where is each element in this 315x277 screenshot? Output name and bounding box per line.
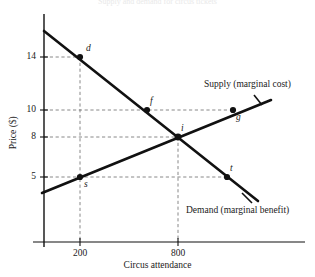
demand-curve-label: Demand (marginal benefit) — [186, 206, 289, 216]
y-axis-title: Price ($) — [9, 103, 19, 163]
y-tick-label-8: 8 — [18, 132, 36, 142]
x-tick-label-200: 200 — [60, 249, 100, 259]
point-i — [175, 134, 182, 141]
x-axis-title: Circus attendance — [0, 261, 315, 271]
point-label-t: t — [230, 164, 233, 174]
point-s — [77, 174, 83, 180]
point-t — [224, 174, 230, 180]
supply-demand-figure: Supply and demand for circus tickets — [0, 0, 315, 277]
y-tick-label-5: 5 — [18, 172, 36, 182]
point-d — [77, 54, 83, 60]
point-label-d: d — [86, 44, 91, 54]
point-label-i: i — [181, 124, 184, 134]
y-tick-label-14: 14 — [18, 52, 36, 62]
point-label-f: f — [150, 97, 153, 107]
point-label-g: g — [236, 113, 241, 123]
y-tick-label-10: 10 — [18, 105, 36, 115]
point-f — [144, 107, 150, 113]
point-label-s: s — [84, 180, 88, 190]
supply-curve-label: Supply (marginal cost) — [204, 80, 291, 90]
plot-canvas — [0, 0, 315, 277]
x-tick-label-800: 800 — [158, 249, 198, 259]
supply-label-leader — [254, 95, 262, 105]
